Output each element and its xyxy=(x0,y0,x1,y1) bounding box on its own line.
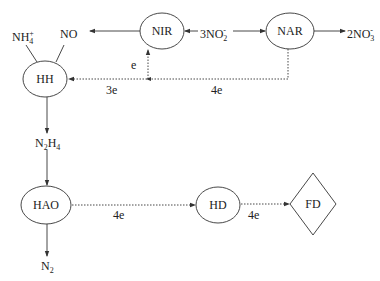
electron-label-hao-to-hd: 4e xyxy=(113,208,124,222)
species-no: NO xyxy=(60,27,77,41)
electron-label-from-nar: 4e xyxy=(211,83,222,97)
edge-hh-no xyxy=(56,45,64,62)
node-nar-label: NAR xyxy=(270,24,310,38)
electron-label-hd-to-fd: 4e xyxy=(248,208,259,222)
node-hd-label: HD xyxy=(198,198,238,212)
node-nir-label: NIR xyxy=(142,24,182,38)
junction-arrow-icon xyxy=(146,77,151,81)
species-nh4: NH4+ xyxy=(12,27,34,49)
electron-label-to-nir: e xyxy=(131,58,136,72)
node-hh-label: HH xyxy=(25,72,65,86)
species-n2: N2 xyxy=(41,259,54,278)
species-3no2: 3NO2- xyxy=(200,24,226,46)
node-fd-label: FD xyxy=(293,197,333,211)
node-hao-label: HAO xyxy=(26,198,66,212)
species-2no3: 2NO3- xyxy=(347,24,373,46)
edge-nar-electron-flow xyxy=(150,49,288,79)
species-n2h4: N2H4 xyxy=(35,136,60,155)
electron-label-to-hh: 3e xyxy=(106,83,117,97)
